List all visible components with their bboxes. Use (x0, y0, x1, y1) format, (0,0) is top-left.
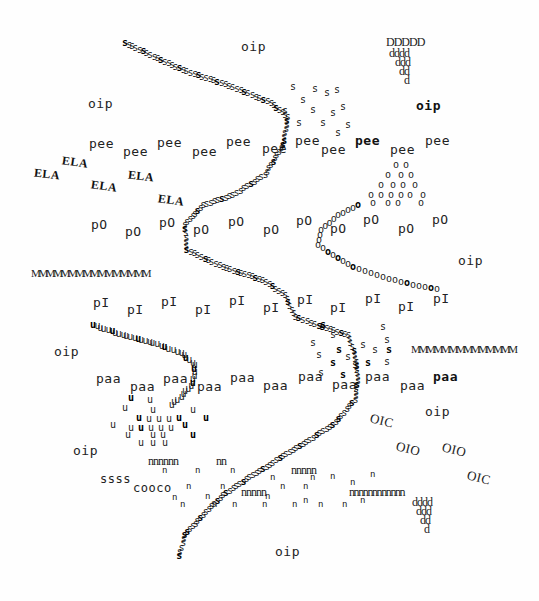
word-d: d (424, 523, 429, 535)
word-oip: oip (54, 345, 79, 358)
n-scatter-glyph: n (172, 493, 177, 502)
word-pee: pee (425, 134, 450, 147)
word-oip: oip (416, 99, 441, 112)
s-cluster-glyph: s (384, 357, 390, 367)
word-cooco: cooco (133, 482, 172, 494)
n-scatter-glyph: n (330, 472, 335, 481)
s-cluster-glyph: s (320, 320, 326, 330)
s-cluster-glyph: s (386, 345, 392, 355)
s-cluster-glyph: s (300, 95, 306, 105)
s-cluster-glyph: s (334, 85, 340, 95)
word-nnnnnnnnnnnn: nnnnnnnnnnnn (349, 486, 404, 498)
n-scatter-glyph: n (303, 482, 308, 491)
word-po: pO (125, 225, 142, 238)
word-paa: paa (230, 371, 255, 384)
word-po: pO (91, 218, 108, 231)
n-scatter-glyph: n (162, 466, 167, 475)
word-pee: pee (226, 135, 251, 148)
n-scatter-glyph: n (230, 466, 235, 475)
s-cluster-glyph: s (345, 120, 351, 130)
word-oip: oip (241, 40, 266, 53)
s-cluster-glyph: s (296, 118, 302, 128)
s-cluster-glyph: s (318, 368, 324, 378)
s-cluster-glyph: s (310, 338, 316, 348)
n-scatter-glyph: n (318, 500, 323, 509)
word-oio: OIO (441, 440, 468, 459)
word-pee: pee (321, 143, 346, 156)
word-pee: pee (157, 136, 182, 149)
word-po: pO (263, 223, 280, 236)
word-pi: pI (229, 294, 246, 307)
word-pee: pee (355, 134, 380, 147)
word-paa: paa (197, 380, 222, 393)
word-po: pO (432, 213, 449, 226)
word-pi: pI (161, 295, 178, 308)
u-cluster-glyph: u (125, 430, 131, 440)
s-cluster-glyph: s (290, 82, 296, 92)
o-cluster-glyph: o (385, 198, 391, 208)
u-cluster-glyph: u (190, 405, 196, 415)
s-cluster-glyph: s (320, 118, 326, 128)
typewriter-poem-canvas: oip oip oip oip oip oip oip oip DDDDD dd… (0, 0, 539, 601)
word-mmmm-right: MMMMMMMMMMMMMM (411, 344, 516, 355)
u-cluster-glyph: u (138, 438, 144, 448)
s-cluster-glyph: s (310, 105, 316, 115)
word-pi: pI (365, 292, 382, 305)
word-nn: nn (216, 455, 226, 467)
word-oip: oip (425, 405, 450, 418)
word-pi: pI (330, 301, 347, 314)
word-oip: oip (458, 254, 483, 267)
s-cluster-glyph: s (336, 345, 342, 355)
o-cluster-glyph: o (395, 198, 401, 208)
n-scatter-glyph: n (262, 500, 267, 509)
u-cluster-glyph: u (203, 413, 209, 423)
n-scatter-glyph: n (212, 500, 217, 509)
u-cluster-glyph: u (162, 438, 168, 448)
word-ela: ELA (90, 178, 118, 194)
word-paa: paa (365, 370, 390, 383)
u-cluster-glyph: u (128, 393, 134, 403)
n-scatter-glyph: n (220, 482, 225, 491)
word-pi: pI (297, 293, 314, 306)
word-ela: ELA (157, 192, 185, 208)
n-scatter-glyph: n (360, 496, 365, 505)
word-paa: paa (96, 372, 121, 385)
s-cluster-glyph: s (330, 330, 336, 340)
s-path-glyph: s (176, 551, 182, 561)
word-pee: pee (295, 134, 320, 147)
o-cluster-glyph: o (407, 190, 413, 200)
word-mmmm-left: MMMMMMMMMMMMMMMM (31, 268, 149, 279)
word-d: d (404, 74, 409, 86)
word-oip: oip (88, 97, 113, 110)
word-pee: pee (390, 143, 415, 156)
word-po: pO (193, 223, 210, 236)
s-cluster-glyph: s (360, 340, 366, 350)
s-cluster-glyph: s (330, 358, 336, 368)
n-scatter-glyph: n (270, 473, 275, 482)
u-cluster-glyph: u (138, 423, 144, 433)
word-pi: pI (195, 303, 212, 316)
word-pi: pI (127, 303, 144, 316)
s-cluster-glyph: s (340, 370, 346, 380)
n-scatter-glyph: n (280, 482, 285, 491)
word-ssss: ssss (100, 473, 131, 485)
n-scatter-glyph: n (292, 500, 297, 509)
n-scatter-glyph: n (310, 473, 315, 482)
o-cluster-glyph: o (378, 190, 384, 200)
word-oip: oip (73, 444, 98, 457)
n-scatter-glyph: n (205, 492, 210, 501)
word-ela: ELA (127, 169, 154, 184)
o-path-glyph: o (434, 284, 440, 294)
word-pee: pee (192, 145, 217, 158)
word-po: pO (398, 222, 415, 235)
s-cluster-glyph: s (330, 108, 336, 118)
word-ela: ELA (33, 167, 60, 182)
s-cluster-glyph: s (372, 345, 378, 355)
word-oic: OIC (369, 411, 395, 429)
n-scatter-glyph: n (370, 470, 375, 479)
s-cluster-glyph: s (365, 358, 371, 368)
word-pi: pI (263, 301, 280, 314)
word-po: pO (159, 216, 176, 229)
s-cluster-glyph: s (340, 102, 346, 112)
word-oip: oip (275, 545, 300, 558)
